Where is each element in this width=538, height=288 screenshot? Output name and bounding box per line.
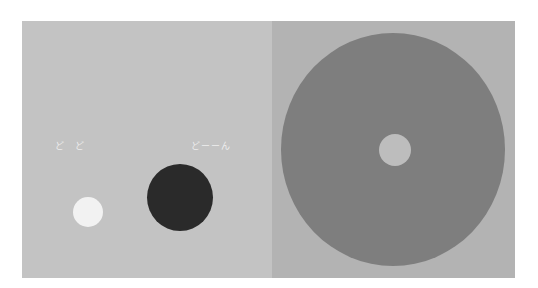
inner-circle	[379, 134, 411, 166]
sound-effect-text-left: ど ど	[55, 139, 85, 152]
white-circle	[73, 197, 103, 227]
left-panel: ど ど どーーん	[22, 21, 272, 278]
image-frame: ど ど どーーん	[22, 21, 515, 278]
sound-effect-text-right: どーーん	[191, 139, 231, 152]
right-panel	[272, 21, 515, 278]
dark-circle	[147, 164, 213, 231]
